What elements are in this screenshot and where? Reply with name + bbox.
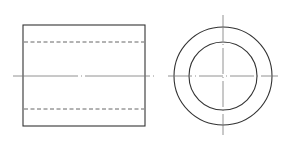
technical-drawing bbox=[0, 0, 292, 149]
side-view bbox=[168, 15, 278, 135]
front-view-outline bbox=[23, 25, 145, 126]
front-view bbox=[13, 25, 155, 126]
